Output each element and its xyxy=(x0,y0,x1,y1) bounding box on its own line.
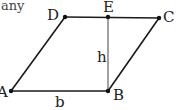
base-label-b: b xyxy=(55,93,65,110)
vertex-c-dot xyxy=(157,16,161,20)
label-d: D xyxy=(47,6,59,24)
label-b: B xyxy=(113,86,124,104)
vertex-b-dot xyxy=(106,89,110,93)
label-e: E xyxy=(103,0,114,16)
side-bc xyxy=(108,18,159,91)
caption-fragment: any xyxy=(1,0,25,13)
label-a: A xyxy=(0,83,8,101)
label-c: C xyxy=(163,8,174,26)
parallelogram-diagram: any A B C D E b h xyxy=(0,0,182,110)
vertex-labels: A B C D E xyxy=(0,0,174,104)
side-da xyxy=(11,17,65,91)
parallelogram-sides xyxy=(11,17,159,91)
side-cd xyxy=(65,17,159,18)
vertex-d-dot xyxy=(63,15,67,19)
height-label-h: h xyxy=(97,48,107,66)
vertex-dots xyxy=(9,15,161,93)
vertex-a-dot xyxy=(9,89,13,93)
